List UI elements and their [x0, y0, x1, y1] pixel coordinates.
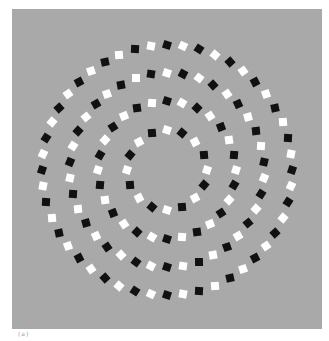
ring-square	[215, 207, 226, 218]
ring-square	[122, 165, 132, 175]
ring-square	[53, 102, 64, 113]
ring-square	[147, 98, 156, 107]
ring-square	[195, 286, 203, 294]
ring-square	[162, 262, 172, 272]
ring-square	[255, 188, 266, 199]
ring-square	[73, 76, 84, 87]
ring-square	[177, 97, 188, 108]
ring-square	[129, 285, 140, 296]
ring-square	[90, 99, 101, 110]
ring-square	[62, 88, 73, 99]
ring-square	[67, 141, 78, 152]
ring-square	[178, 261, 187, 270]
ring-square	[146, 260, 157, 271]
ring-square	[41, 132, 52, 143]
ring-square	[73, 125, 84, 136]
ring-square	[147, 129, 156, 138]
ring-square	[243, 217, 254, 228]
ring-square	[278, 118, 287, 127]
ring-square	[131, 227, 142, 238]
ring-square	[42, 198, 50, 206]
ring-square	[114, 280, 125, 291]
ring-square	[271, 103, 280, 112]
ring-square	[221, 241, 231, 251]
ring-square	[146, 232, 157, 243]
ring-square	[162, 125, 172, 135]
ring-square	[46, 117, 57, 128]
ring-square	[65, 157, 75, 167]
ring-square	[243, 112, 253, 122]
ring-square	[133, 103, 142, 112]
ring-square	[162, 290, 172, 300]
ring-square	[179, 289, 188, 298]
ring-square	[126, 181, 135, 190]
ring-square	[209, 251, 218, 260]
ring-square	[99, 134, 110, 145]
ring-square	[202, 165, 212, 175]
ring-square	[80, 111, 91, 122]
ring-square	[69, 190, 78, 199]
ring-square	[162, 40, 172, 50]
ring-square	[38, 182, 47, 191]
ring-square	[261, 241, 272, 252]
ring-square	[259, 157, 269, 167]
ring-square	[287, 165, 297, 175]
ring-square	[162, 205, 172, 215]
ring-square	[210, 281, 219, 290]
ring-square	[205, 219, 215, 229]
ring-square	[250, 253, 261, 264]
ring-square	[108, 121, 119, 132]
ring-square	[81, 218, 91, 228]
ring-square	[100, 57, 109, 66]
ring-square	[194, 44, 205, 55]
ring-square	[178, 203, 187, 212]
ring-square	[257, 142, 266, 151]
ring-square	[224, 194, 235, 205]
ring-square	[200, 150, 209, 159]
ring-square	[65, 173, 75, 183]
ring-square	[54, 228, 63, 237]
ring-square	[191, 102, 202, 113]
ring-square	[190, 136, 201, 147]
ring-square	[178, 69, 189, 80]
illusion-figure	[12, 9, 322, 329]
ring-square	[230, 150, 239, 159]
ring-square	[261, 89, 271, 99]
ring-square	[224, 56, 235, 67]
ring-square	[190, 193, 201, 204]
ring-square	[233, 99, 244, 110]
ring-square	[119, 111, 129, 121]
ring-square	[130, 256, 141, 267]
ring-square	[102, 241, 113, 252]
ring-square	[231, 165, 241, 175]
ring-square	[108, 208, 118, 218]
ring-square	[209, 49, 220, 60]
ring-square	[146, 41, 155, 50]
ring-square	[283, 133, 291, 141]
ring-square	[47, 213, 56, 222]
ring-square	[286, 149, 295, 158]
ring-square	[162, 234, 172, 244]
ring-square	[178, 233, 187, 242]
ring-square	[37, 165, 47, 175]
ring-square	[238, 264, 248, 274]
ring-square	[204, 111, 215, 122]
ring-square	[63, 241, 73, 251]
ring-square	[192, 228, 201, 237]
ring-square	[124, 149, 135, 160]
ring-square	[178, 41, 189, 52]
ring-square	[130, 45, 138, 53]
ring-square	[282, 197, 293, 208]
ring-square	[145, 289, 156, 300]
ring-square	[208, 79, 219, 90]
ring-square	[99, 273, 110, 284]
ring-square	[238, 65, 249, 76]
figure-caption: (a)	[18, 330, 29, 337]
ring-square	[133, 136, 144, 147]
ring-square	[229, 180, 240, 191]
ring-square	[225, 274, 234, 283]
ring-square	[116, 80, 125, 89]
ring-square	[118, 218, 129, 229]
ring-square	[286, 181, 297, 192]
ring-square	[86, 66, 96, 76]
